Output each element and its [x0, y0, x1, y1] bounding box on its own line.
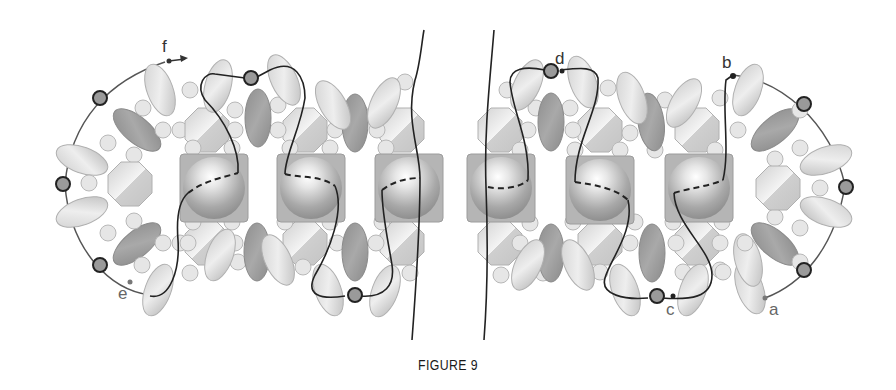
label-f: f: [162, 37, 167, 56]
label-a: a: [769, 300, 779, 319]
label-e: e: [118, 284, 127, 303]
left-beadwork-half: f e: [52, 30, 443, 340]
right-beadwork-half: d b c a: [467, 30, 856, 340]
figure-caption: FIGURE 9: [81, 356, 816, 373]
label-c: c: [666, 300, 675, 319]
label-d: d: [555, 49, 564, 68]
label-b: b: [722, 53, 731, 72]
beadwork-diagram: f e: [0, 0, 896, 390]
